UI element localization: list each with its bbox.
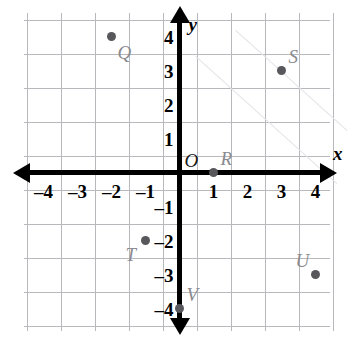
y-tick-label: 4	[144, 28, 174, 47]
data-point	[175, 304, 184, 313]
x-tick-label: 3	[267, 182, 297, 201]
x-tick-label: 4	[301, 182, 331, 201]
point-label-v: V	[187, 285, 199, 304]
point-label-r: R	[221, 149, 233, 168]
data-point	[209, 168, 218, 177]
data-point	[277, 66, 286, 75]
point-label-q: Q	[118, 43, 132, 62]
y-axis	[177, 22, 182, 318]
x-tick-label: 2	[233, 182, 263, 201]
point-label-s: S	[289, 47, 299, 66]
x-tick-label: –3	[63, 182, 93, 201]
point-label-t: T	[126, 245, 137, 264]
y-tick-label: –3	[144, 266, 174, 285]
y-axis-label: y	[189, 15, 197, 34]
x-axis-right-arrow	[320, 163, 337, 183]
x-tick-label: –2	[97, 182, 127, 201]
data-point	[311, 270, 320, 279]
data-point	[107, 32, 116, 41]
y-tick-label: 2	[144, 96, 174, 115]
x-tick-label: –4	[29, 182, 59, 201]
y-tick-label: –4	[144, 300, 174, 319]
y-axis-up-arrow	[170, 6, 190, 23]
x-tick-label: 1	[199, 182, 229, 201]
y-tick-label: 3	[144, 62, 174, 81]
data-point	[141, 236, 150, 245]
origin-label: O	[185, 151, 199, 170]
point-label-u: U	[296, 251, 310, 270]
y-tick-label: 1	[144, 130, 174, 149]
coordinate-plane-figure: x y O –4–3–2–112344321–1–2–3–4 QSRTUV	[0, 0, 351, 343]
x-axis-label: x	[333, 144, 343, 163]
y-tick-label: –1	[144, 198, 174, 217]
x-axis-left-arrow	[13, 163, 30, 183]
x-axis	[30, 170, 320, 175]
y-axis-down-arrow	[170, 318, 190, 335]
